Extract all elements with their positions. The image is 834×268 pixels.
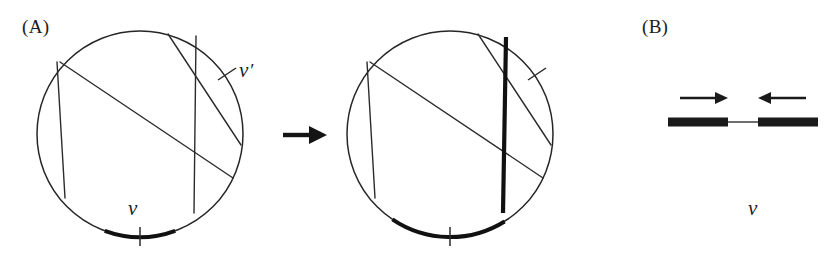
panel-c: (C) — [610, 0, 834, 268]
panel-a-graphic — [0, 0, 280, 268]
panel-b-graphic — [310, 0, 590, 268]
panel-b: (B) v v′ — [310, 0, 590, 268]
vertex-label-v-prime-a: v′ — [239, 58, 254, 83]
panel-a: (A) v v′ — [0, 0, 280, 268]
panel-c-graphic — [610, 0, 834, 268]
right-arrow-head — [758, 92, 771, 104]
long-diagonal-chord — [370, 62, 543, 178]
bottom-bold-arc — [392, 219, 504, 237]
left-near-vertical-chord — [367, 62, 375, 198]
panel-label-a: (A) — [22, 16, 49, 38]
upper-right-diagonal-chord — [168, 34, 241, 145]
left-near-vertical-chord — [57, 62, 65, 198]
right-near-vertical-chord — [194, 36, 196, 213]
prime-mark-a: ′ — [248, 60, 254, 81]
vertex-label-v-a: v — [128, 196, 137, 221]
circle-outline — [37, 31, 243, 237]
upper-right-diagonal-chord — [478, 34, 551, 145]
vertex-prime-letter-a: v — [239, 58, 248, 82]
bold-vertical-chord — [503, 37, 506, 213]
long-diagonal-chord — [60, 62, 233, 178]
circle-outline — [347, 31, 553, 237]
left-arrow-head — [715, 92, 728, 104]
figure-root: (A) v v′ (B) v v′ — [0, 0, 834, 268]
